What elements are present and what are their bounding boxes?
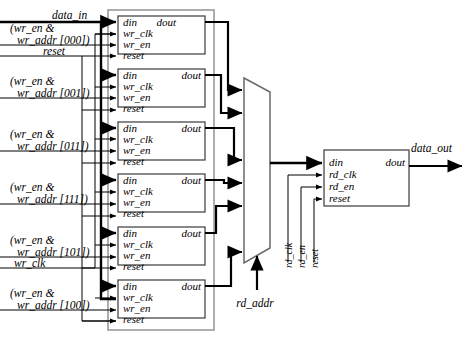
reset-label: reset (43, 45, 66, 57)
outreg-port-dout: dout (385, 156, 406, 168)
diagram-canvas: din wr_clk wr_en reset dout din wr_clk w… (0, 0, 465, 339)
wr-sel-001-line2: wr_addr [001]) (17, 87, 90, 100)
reset-vertical-label: reset (309, 249, 320, 268)
wr-sel-011-line2: wr_addr [011]) (17, 140, 89, 153)
reg1-pin-reset: reset (123, 102, 145, 114)
dout-to-mux-wires (205, 22, 242, 286)
outreg-pin-reset: reset (329, 192, 351, 204)
reg0-pin-reset: reset (123, 49, 145, 61)
register-pin-labels: din wr_clk wr_en reset dout din wr_clk w… (123, 16, 202, 325)
outreg-pin-rd-clk: rd_clk (329, 168, 358, 180)
outreg-pin-rd-en: rd_en (329, 180, 355, 192)
reg3-pin-reset: reset (123, 207, 145, 219)
outreg-pin-din: din (329, 156, 344, 168)
rd-addr-label: rd_addr (236, 297, 274, 309)
wr-clk-label: wr_clk (14, 257, 46, 269)
data-out-label: data_out (411, 142, 453, 154)
reg2-pin-reset: reset (123, 155, 145, 167)
reg1-port-dout: dout (181, 69, 202, 81)
reg0-port-dout: dout (156, 16, 177, 28)
read-multiplexer[interactable] (244, 78, 270, 263)
reg4-pin-reset: reset (123, 260, 145, 272)
register-file-diagram: din wr_clk wr_en reset dout din wr_clk w… (0, 0, 465, 339)
data-in-label: data_in (52, 9, 87, 21)
reg2-port-dout: dout (181, 122, 202, 134)
reg4-port-dout: dout (181, 227, 202, 239)
reg3-port-dout: dout (181, 174, 202, 186)
register-boxes (118, 16, 205, 318)
wr-sel-111-line2: wr_addr [111]) (17, 193, 88, 206)
wr-sel-100-line2: wr_addr [100]) (17, 299, 90, 312)
input-signal-labels: data_in (wr_en & wr_addr [000]) reset (w… (10, 9, 90, 312)
rd-clk-vertical-label: rd_clk (283, 242, 294, 268)
reg5-port-dout: dout (181, 280, 202, 292)
rd-en-vertical-label: rd_en (296, 245, 307, 268)
reg5-pin-reset: reset (123, 313, 145, 325)
